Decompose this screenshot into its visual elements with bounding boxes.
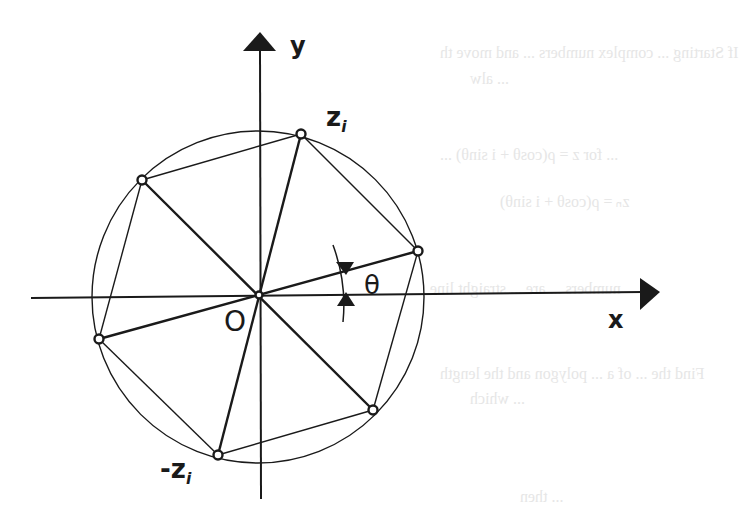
- point-z-i: [297, 130, 306, 139]
- y-axis-arrow-icon: [243, 32, 276, 51]
- y-axis: [260, 50, 261, 499]
- point-lower-right: [369, 406, 378, 415]
- point-right: [414, 247, 423, 256]
- z-i-label: zi: [326, 104, 347, 136]
- point-upper-left: [138, 176, 147, 185]
- neg-z-i-label-sub: i: [186, 470, 191, 488]
- neg-z-i-label: -zi: [160, 456, 191, 488]
- x-axis-label: x: [608, 308, 623, 332]
- point-left: [95, 335, 104, 344]
- y-axis-label: y: [290, 34, 306, 58]
- point-origin: [256, 292, 263, 299]
- z-i-label-main: z: [326, 102, 341, 132]
- x-axis: [31, 292, 644, 298]
- origin-label: O: [224, 308, 246, 336]
- x-axis-arrow-icon: [640, 278, 660, 310]
- neg-z-i-label-main: -z: [160, 454, 186, 484]
- theta-label: θ: [364, 272, 380, 298]
- angle-theta-marker: [333, 245, 355, 322]
- z-i-label-sub: i: [341, 118, 346, 136]
- point-neg-z-i: [214, 451, 223, 460]
